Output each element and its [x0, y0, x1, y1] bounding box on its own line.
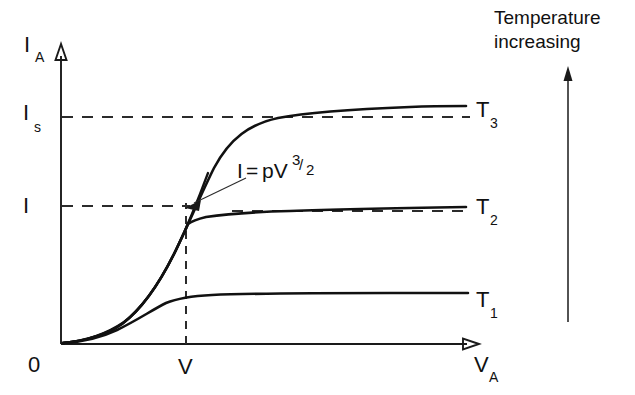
curve-label-t2-main: T: [476, 194, 489, 219]
x-axis-label: V A: [474, 352, 499, 385]
curve-label-t1-main: T: [476, 287, 489, 312]
curve-t3: [63, 106, 466, 343]
y-tick-label-is-subscript: s: [34, 119, 41, 135]
curve-label-t3: T 3: [476, 97, 498, 131]
origin-label: 0: [28, 352, 40, 377]
y-tick-label-is-main: I: [23, 100, 29, 125]
y-axis-label-subscript: A: [35, 49, 45, 65]
y-tick-label-i: I: [23, 193, 29, 218]
equation-exponent-denominator: 2: [306, 161, 314, 178]
equation-exponent-slash: /: [299, 156, 304, 173]
y-axis-label: I A: [24, 32, 45, 65]
equation-rhs: pV: [262, 159, 288, 182]
temperature-increasing-arrow-group: [564, 66, 573, 322]
curve-space-charge-law: [63, 173, 208, 343]
thermionic-diode-characteristic-figure: I A V A 0 I s I V T 3 T 2 T 1 I = pV 3 /…: [0, 0, 635, 395]
equation-lhs: I: [237, 159, 243, 182]
equation-annotation: I = pV 3 / 2: [237, 151, 314, 182]
curve-label-t2: T 2: [476, 194, 498, 228]
y-tick-label-is: I s: [23, 100, 41, 135]
curve-label-t2-subscript: 2: [490, 212, 498, 228]
x-axis-label-main: V: [474, 352, 489, 377]
curve-t1: [63, 293, 468, 343]
temperature-note-line1: Temperature: [494, 7, 601, 28]
curves-group: [63, 106, 468, 343]
curve-t2: [63, 207, 466, 343]
annotation-leader-group: [185, 178, 246, 211]
curve-label-t1-subscript: 1: [490, 305, 498, 321]
curve-label-t3-subscript: 3: [490, 115, 498, 131]
y-axis-label-main: I: [24, 32, 30, 57]
x-tick-label-v: V: [178, 354, 193, 379]
curve-label-t3-main: T: [476, 97, 489, 122]
curve-label-t1: T 1: [476, 287, 498, 321]
temperature-increasing-note: Temperature increasing: [494, 7, 601, 52]
temperature-arrow-head: [564, 66, 573, 81]
temperature-note-line2: increasing: [494, 31, 581, 52]
x-axis-label-subscript: A: [489, 369, 499, 385]
equation-equals: =: [246, 159, 258, 182]
axes-group: [56, 44, 480, 350]
reference-lines-group: [62, 117, 470, 344]
